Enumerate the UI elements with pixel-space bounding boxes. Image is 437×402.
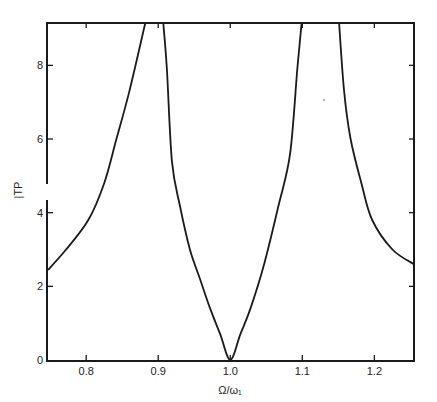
y-tick-label: 8 — [37, 59, 43, 71]
y-tick-label: 6 — [37, 133, 43, 145]
y-tick-label: 0 — [37, 354, 43, 366]
x-tick-label: 1.0 — [223, 365, 238, 377]
x-tick-label: 1.1 — [295, 365, 310, 377]
plot-frame — [47, 23, 414, 361]
x-axis-title: Ω/ω₁ — [218, 384, 242, 396]
plot-curves — [48, 23, 414, 360]
y-axis-title: |TP — [12, 182, 24, 199]
axis-gap — [44, 184, 50, 200]
y-tick-label: 4 — [37, 207, 43, 219]
x-tick-label: 0.8 — [79, 365, 94, 377]
curve-left-branch — [48, 23, 145, 270]
curve-middle-branch — [163, 23, 301, 360]
chart: 0.80.91.01.11.202468 Ω/ω₁ |TP — [0, 0, 437, 402]
x-tick-label: 0.9 — [151, 365, 166, 377]
curve-right-branch — [339, 23, 414, 264]
axis-ticks: 0.80.91.01.11.202468 — [37, 23, 414, 377]
y-tick-label: 2 — [37, 280, 43, 292]
speck — [323, 99, 325, 101]
x-tick-label: 1.2 — [367, 365, 382, 377]
